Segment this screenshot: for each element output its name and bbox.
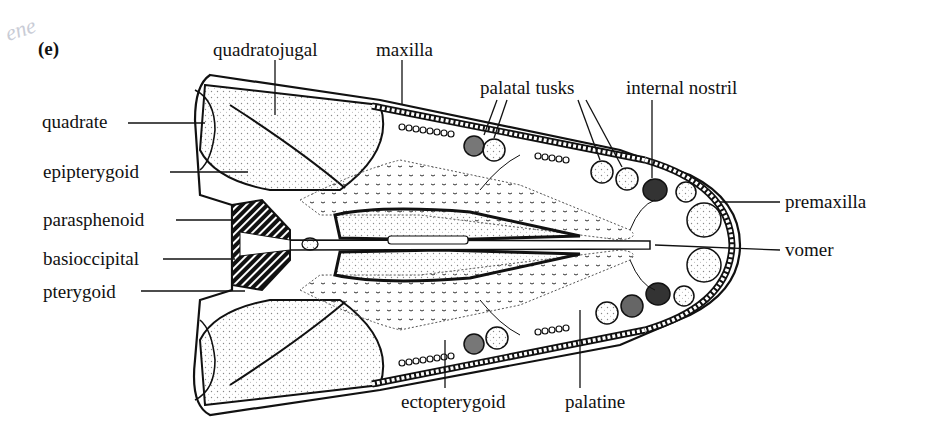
label-palatal-tusks: palatal tusks [480,78,574,98]
label-palatine: palatine [565,392,625,412]
label-pterygoid: pterygoid [43,282,116,302]
label-vomer: vomer [785,240,834,260]
label-premaxilla: premaxilla [785,192,866,212]
label-quadratojugal: quadratojugal [213,40,317,60]
label-basioccipital: basioccipital [43,249,139,269]
label-parasphenoid: parasphenoid [43,210,144,230]
label-ectopterygoid: ectopterygoid [401,392,505,412]
label-internal-nostril: internal nostril [626,78,737,98]
label-epipterygoid: epipterygoid [43,162,139,182]
label-maxilla: maxilla [376,40,433,60]
label-quadrate: quadrate [42,112,107,132]
